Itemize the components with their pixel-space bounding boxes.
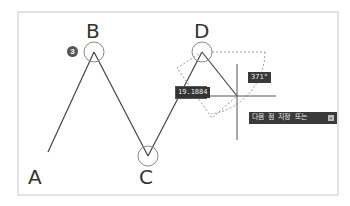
point-label-b: B [86,19,100,43]
point-label-d: D [194,19,209,43]
step-number-badge: 3 [67,46,78,57]
angle-arc [211,52,265,114]
arrow-down-icon[interactable]: ▾ [328,115,334,121]
command-prompt-text: 다음 점 지정 또는 [252,113,307,121]
angle-tooltip: 371° [248,72,271,83]
point-label-c: C [139,165,153,189]
segment-b-c [94,52,148,156]
segment-a-b [48,52,94,152]
distance-input[interactable]: 19.1884 [175,86,207,99]
drawing-canvas[interactable]: A B C D [0,0,350,206]
distance-input-value[interactable]: 19.1884 [176,87,210,98]
segment-c-d [148,52,202,156]
point-label-a: A [28,165,42,189]
drawing-frame [18,12,338,195]
command-prompt-tooltip: 다음 점 지정 또는 ▾ [249,112,337,124]
